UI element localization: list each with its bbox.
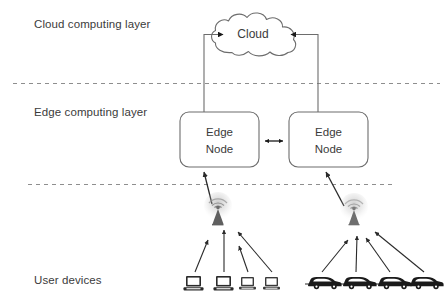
edge-node-right-label-line2: Node: [315, 143, 343, 155]
edge-node-left-label-line2: Node: [206, 143, 234, 155]
connectors-devices-to-tower-right: [322, 232, 424, 272]
cell-tower-right-icon: [340, 193, 368, 225]
connector-tower-right-to-edge-right: [326, 172, 344, 206]
cloud-label: Cloud: [237, 27, 268, 41]
computer-icon-4: [263, 277, 280, 290]
diagram-canvas: Cloud computing layer Edge computing lay…: [0, 0, 448, 306]
connectors-devices-to-tower-left: [195, 230, 272, 272]
cell-tower-left-icon: [204, 192, 232, 225]
computer-icon-3: [239, 277, 256, 290]
edge-node-left-label-line1: Edge: [206, 126, 233, 138]
edge-node-right[interactable]: Edge Node: [289, 112, 368, 167]
cloud-node[interactable]: Cloud: [212, 13, 296, 56]
edge-node-left[interactable]: Edge Node: [180, 112, 259, 167]
car-icon-2: [343, 277, 377, 289]
car-icon-3: [378, 277, 412, 289]
diagram-graphics: Cloud Edge Node Edge Node: [0, 0, 448, 306]
car-icon-1: [308, 277, 342, 289]
edge-node-right-box: [289, 112, 368, 167]
computer-icon-1: [184, 276, 204, 290]
car-icon-4: [410, 277, 444, 289]
edge-node-left-box: [180, 112, 259, 167]
edge-node-right-label-line1: Edge: [315, 126, 342, 138]
computer-icon-2: [214, 276, 234, 290]
